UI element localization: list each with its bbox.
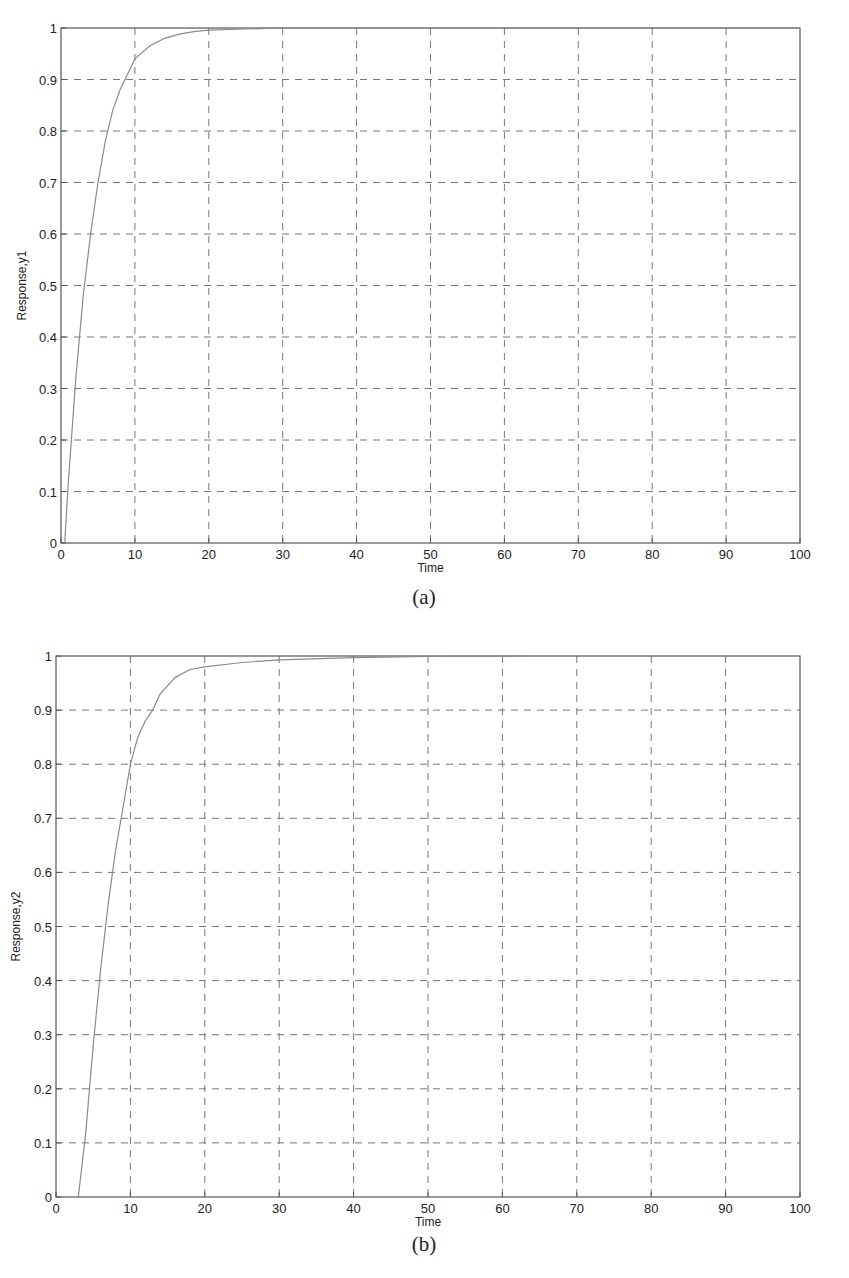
caption-b: (b) <box>412 1232 437 1257</box>
figure-b: 010203040506070809010000.10.20.30.40.50.… <box>0 0 849 1278</box>
x-tick-label: 20 <box>198 1201 212 1216</box>
y-axis-label: Response,y2 <box>9 891 23 961</box>
y-tick-label: 0.9 <box>34 703 52 718</box>
x-axis-label: Time <box>415 1215 442 1229</box>
y-tick-label: 0.7 <box>34 811 52 826</box>
x-tick-label: 80 <box>644 1201 658 1216</box>
y-tick-label: 0.5 <box>34 920 52 935</box>
y-tick-label: 0 <box>45 1190 52 1205</box>
y-tick-label: 0.1 <box>34 1136 52 1151</box>
x-tick-label: 50 <box>421 1201 435 1216</box>
x-tick-label: 100 <box>789 1201 811 1216</box>
x-tick-label: 60 <box>495 1201 509 1216</box>
line-chart-b: 010203040506070809010000.10.20.30.40.50.… <box>0 0 849 1278</box>
x-tick-label: 40 <box>346 1201 360 1216</box>
y-tick-label: 0.6 <box>34 865 52 880</box>
y-tick-label: 0.4 <box>34 974 52 989</box>
x-tick-label: 0 <box>52 1201 59 1216</box>
series-line-y2 <box>78 656 524 1197</box>
x-tick-label: 10 <box>123 1201 137 1216</box>
y-tick-label: 1 <box>45 649 52 664</box>
y-tick-label: 0.8 <box>34 757 52 772</box>
y-tick-label: 0.2 <box>34 1082 52 1097</box>
x-tick-label: 90 <box>718 1201 732 1216</box>
x-tick-label: 30 <box>272 1201 286 1216</box>
x-tick-label: 70 <box>570 1201 584 1216</box>
y-tick-label: 0.3 <box>34 1028 52 1043</box>
